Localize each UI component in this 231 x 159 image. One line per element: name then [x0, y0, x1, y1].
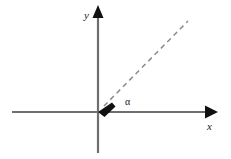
angle-diagram: y x α — [0, 0, 231, 159]
angle-alpha-label: α — [125, 96, 131, 107]
ray-arrowhead — [98, 103, 116, 118]
x-axis-arrowhead — [205, 106, 218, 119]
diagram-canvas: y x α — [0, 0, 231, 159]
y-axis-arrowhead — [93, 5, 104, 18]
y-axis-label: y — [83, 9, 89, 21]
dashed-ray-line — [104, 21, 188, 106]
x-axis-label: x — [206, 120, 212, 132]
